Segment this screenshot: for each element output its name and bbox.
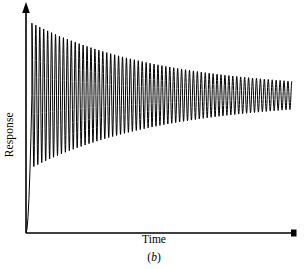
figure-panel: Response Time (b) [0,0,308,269]
caption-suffix: ) [157,251,161,263]
response-curve [26,23,292,233]
y-axis-label-text: Response [3,112,15,157]
x-axis-label: Time [0,234,308,246]
y-axis-label: Response [0,0,18,269]
figure-caption: (b) [0,251,308,263]
response-vs-time-chart [0,0,308,269]
y-axis-arrow-icon [22,2,30,13]
